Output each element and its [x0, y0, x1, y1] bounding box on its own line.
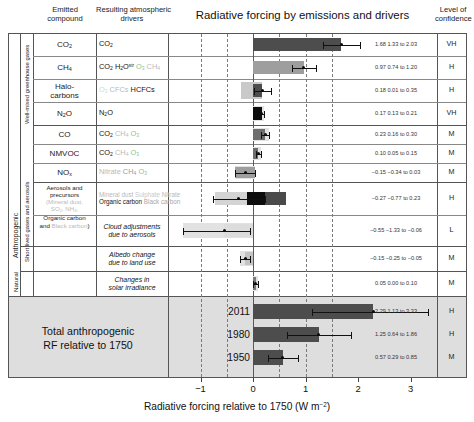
axis-title: Radiative forcing relative to 1750 (W m−… [0, 401, 474, 412]
gridline-neg1 [201, 34, 202, 377]
value-label-5: 0.10 0.05 to 0.15 [355, 150, 437, 156]
driver-label-10: Changes insolar irradiance [99, 276, 165, 294]
row-sep-3 [33, 102, 466, 103]
total-right-edge [466, 296, 467, 377]
value-label-10: 0.05 0.00 to 0.10 [355, 280, 437, 286]
row-sep-aerosol-inner [33, 215, 466, 216]
compound-label-6: NOx [35, 168, 94, 177]
value-label-0: 1.68 1.33 to 2.03 [355, 41, 437, 47]
gridline-1p5 [332, 34, 333, 377]
frame-bottom [8, 377, 467, 378]
axis-tick-label-2: 1 [292, 383, 320, 394]
compound-label-7: Aerosols andprecursors(Mineral dust,SO2,… [35, 184, 94, 229]
best-estimate-dot-2 [261, 89, 264, 92]
axis-tick-label-4: 3 [397, 383, 425, 394]
row-sep-7 [33, 182, 466, 183]
value-label-total-1: 1.25 0.64 to 1.86 [355, 331, 437, 337]
compound-label-0: CO2 [35, 40, 94, 49]
side-label-short-lived: Short lived gases and aerosols [24, 181, 30, 262]
best-estimate-dot-6 [244, 171, 247, 174]
error-cap-low-total-1 [287, 332, 288, 339]
total-plot-left-edge [168, 296, 169, 377]
gridline-0p5 [279, 34, 280, 377]
error-bar-8 [183, 231, 250, 232]
row-sep-1 [33, 56, 466, 57]
driver-label-7: Mineral dust Sulphate NitrateOrganic car… [99, 191, 165, 205]
error-cap-high-8 [250, 228, 251, 235]
error-cap-high-4 [269, 132, 270, 139]
confidence-label-6: M [437, 168, 466, 176]
row-sep-6 [33, 163, 466, 164]
compound-label-1: CH4 [35, 63, 94, 72]
confidence-label-2: H [437, 86, 466, 94]
row-sep-4 [33, 125, 466, 126]
confidence-label-10: M [437, 279, 466, 287]
value-label-2: 0.18 0.01 to 0.35 [355, 87, 437, 93]
axis-tick-0 [201, 378, 202, 382]
compound-label-5: NMVOC [35, 149, 94, 158]
error-cap-low-1 [292, 65, 293, 72]
gridline-1 [306, 34, 307, 377]
total-anthropogenic-label: Total anthropogenic RF relative to 1750 [12, 324, 164, 353]
row-sep-5 [33, 144, 466, 145]
confidence-label-5: M [437, 149, 466, 157]
error-cap-high-1 [316, 65, 317, 72]
col-divider-1 [33, 33, 34, 296]
header-level-of-confidence: Level of confidence [435, 6, 471, 23]
error-cap-low-9 [240, 256, 241, 263]
total-year-1950: 1950 [196, 352, 250, 364]
error-cap-low-0 [323, 42, 324, 49]
row-sep-2 [33, 79, 466, 80]
error-cap-low-4 [261, 132, 262, 139]
radiative-forcing-figure: Emitted compoundResulting atmospheric dr… [0, 0, 474, 422]
error-cap-high-5 [261, 151, 262, 158]
error-cap-low-total-0 [312, 309, 313, 316]
total-year-1980: 1980 [196, 329, 250, 341]
value-label-4: 0.23 0.16 to 0.30 [355, 131, 437, 137]
axis-tick-label-3: 2 [344, 383, 372, 394]
confidence-label-4: M [437, 130, 466, 138]
confidence-label-3: VH [437, 109, 466, 117]
axis-tick-1 [253, 378, 254, 382]
compound-label-2: Halo-carbons [35, 82, 94, 100]
bar-segment-7-2 [265, 192, 287, 205]
side-label-anthropogenic: Anthropogenic [12, 213, 19, 258]
confidence-label-0: VH [437, 40, 466, 48]
best-estimate-dot-9 [244, 257, 247, 260]
error-cap-low-7 [213, 196, 214, 203]
error-cap-high-total-2 [298, 355, 299, 362]
error-cap-low-8 [183, 228, 184, 235]
value-label-1: 0.97 0.74 to 1.20 [355, 64, 437, 70]
confidence-label-total-2: M [437, 353, 466, 361]
error-cap-low-2 [254, 88, 255, 95]
value-label-7: −0.27 −0.77 to 0.23 [355, 195, 437, 201]
value-label-8: −0.55 −1.33 to −0.06 [355, 227, 437, 233]
frame-top [8, 33, 467, 34]
driver-label-4: CO2 CH4 O3 [99, 130, 165, 139]
confidence-label-9: M [437, 254, 466, 262]
driver-label-1: CO2 H2Ostr O3 CH4 [99, 63, 165, 72]
row-sep-9 [20, 246, 466, 247]
value-label-total-0: 2.29 1.13 to 3.33 [355, 308, 437, 314]
value-label-9: −0.15 −0.25 to −0.05 [355, 255, 437, 261]
driver-label-2: O3 CFCs HCFCs [99, 86, 165, 95]
col-divider-0 [20, 33, 21, 296]
side-label-well-mixed-ghg: Well-mixed greenhouse gases [24, 45, 30, 124]
driver-label-6: Nitrate CH4 O3 [99, 168, 165, 177]
gridline-neg0p5 [227, 34, 228, 377]
row-sep-10 [20, 271, 466, 272]
header-resulting-drivers: Resulting atmospheric drivers [96, 6, 168, 23]
axis-tick-label-1: 0 [239, 383, 267, 394]
axis-tick-4 [411, 378, 412, 382]
error-cap-high-3 [264, 111, 265, 118]
error-cap-high-10 [258, 281, 259, 288]
axis-tick-2 [306, 378, 307, 382]
side-label-natural: Natural [12, 272, 19, 292]
col-divider-2 [96, 33, 97, 296]
error-cap-high-7 [265, 196, 266, 203]
confidence-label-7: H [437, 194, 466, 202]
header-emitted-compound: Emitted compound [36, 6, 94, 23]
compound-label-4: CO [35, 130, 94, 139]
value-label-3: 0.17 0.13 to 0.21 [355, 110, 437, 116]
value-label-total-2: 0.57 0.29 to 0.85 [355, 354, 437, 360]
